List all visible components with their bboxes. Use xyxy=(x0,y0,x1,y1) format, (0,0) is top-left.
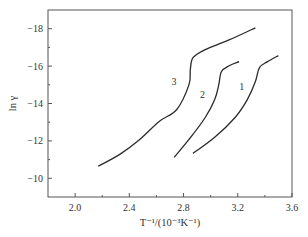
x-tick-label: 3.6 xyxy=(286,202,299,213)
series-labels: 123 xyxy=(172,76,245,100)
plot-frame xyxy=(48,10,292,197)
chart-canvas: 2.02.42.83.23.6 −18−16−14−12−10 123 T⁻¹/… xyxy=(0,0,308,237)
series-3-label: 3 xyxy=(172,76,177,87)
line-chart: 2.02.42.83.23.6 −18−16−14−12−10 123 T⁻¹/… xyxy=(0,0,308,237)
x-tick-label: 2.8 xyxy=(177,202,190,213)
y-tick-label: −18 xyxy=(27,23,43,34)
series-1-line xyxy=(193,56,278,154)
y-axis-ticks: −18−16−14−12−10 xyxy=(27,23,52,184)
series-2-label: 2 xyxy=(200,89,205,100)
x-axis-label: T⁻¹/(10⁻³K⁻¹) xyxy=(140,217,201,229)
x-tick-label: 2.0 xyxy=(69,202,82,213)
y-tick-label: −10 xyxy=(27,173,43,184)
x-tick-label: 3.2 xyxy=(232,202,245,213)
series-1-label: 1 xyxy=(239,81,244,92)
y-tick-label: −16 xyxy=(27,61,43,72)
y-tick-label: −12 xyxy=(27,135,43,146)
y-axis-label: ln γ xyxy=(7,95,18,111)
x-axis-ticks: 2.02.42.83.23.6 xyxy=(69,193,298,213)
y-tick-label: −14 xyxy=(27,98,43,109)
series-3-line xyxy=(98,28,255,167)
x-tick-label: 2.4 xyxy=(123,202,136,213)
data-series xyxy=(98,28,278,167)
